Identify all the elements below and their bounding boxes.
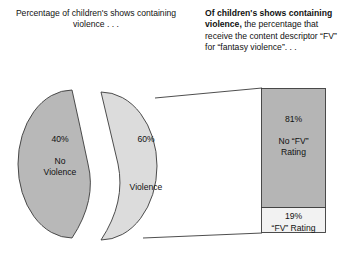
bar-value-no-fv-rating: 81% xyxy=(261,114,326,126)
pie-slice-violence xyxy=(101,92,157,240)
bar-label-no-fv-rating: 81% No “FV” Rating xyxy=(261,114,326,159)
bar-caption-no-fv-line1: No “FV” xyxy=(261,136,326,148)
pie-value-violence-wrapper: 60% xyxy=(108,134,184,146)
violence-ratings-infographic: Percentage of children's shows containin… xyxy=(0,0,350,259)
pie-caption-violence: Violence xyxy=(108,182,184,194)
pie-label-no-violence: 40% No Violence xyxy=(22,134,98,179)
pie-caption-violence-wrapper: Violence xyxy=(108,182,184,194)
pie-caption-no-violence-line2: Violence xyxy=(22,167,98,179)
bar-caption-fv-rating: “FV” Rating xyxy=(261,223,326,235)
connector-line-bottom xyxy=(143,233,262,238)
bar-caption-no-fv-line2: Rating xyxy=(261,147,326,159)
pie-value-no-violence: 40% xyxy=(22,134,98,146)
pie-value-violence: 60% xyxy=(108,134,184,146)
pie-caption-no-violence-line1: No xyxy=(22,156,98,168)
bar-label-fv-rating: 19% “FV” Rating xyxy=(261,211,326,234)
bar-value-fv-rating: 19% xyxy=(261,211,326,223)
connector-line-top xyxy=(155,88,262,98)
